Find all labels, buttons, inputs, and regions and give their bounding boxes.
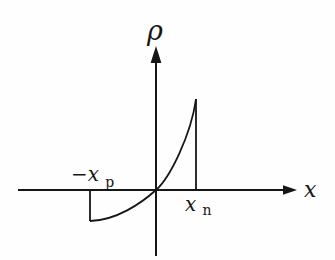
charge-density-diagram: ρ x −x p x n (0, 0, 335, 260)
left-boundary-label: −x p (71, 162, 114, 190)
right-boundary-label-main: x (185, 192, 196, 216)
rho-axis-label: ρ (146, 15, 163, 46)
rho-axis-arrowhead-icon (151, 46, 162, 63)
charge-density-curve (90, 99, 196, 221)
right-boundary-label-subscript: n (202, 202, 211, 218)
left-boundary-label-subscript: p (105, 174, 114, 190)
x-axis-label: x (304, 177, 317, 202)
left-boundary-label-main: −x (71, 162, 99, 186)
x-axis-arrowhead-icon (283, 185, 297, 195)
right-boundary-label: x n (185, 192, 211, 218)
diagram-canvas: ρ x −x p x n (0, 0, 335, 260)
